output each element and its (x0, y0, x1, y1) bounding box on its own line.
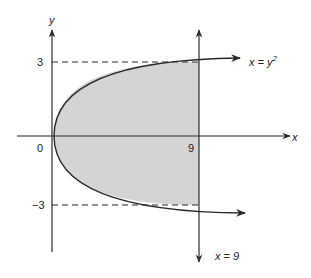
shaded-region (54, 62, 199, 205)
vertical-line-label: x = 9 (214, 250, 239, 262)
tick-label-3: 3 (37, 56, 43, 68)
tick-label-neg3: −3 (32, 199, 45, 211)
tick-label-origin: 0 (37, 142, 43, 154)
tick-label-9: 9 (188, 142, 194, 154)
parabola-label-lhs: x = y (248, 56, 274, 68)
parabola-label-exponent: 2 (272, 54, 278, 63)
parabola-label: x = y2 (248, 54, 278, 68)
y-axis-label: y (48, 14, 56, 26)
diagram-canvas: y x 3 −3 0 9 x = y2 x = 9 (0, 0, 311, 278)
x-axis-label: x (291, 131, 298, 143)
